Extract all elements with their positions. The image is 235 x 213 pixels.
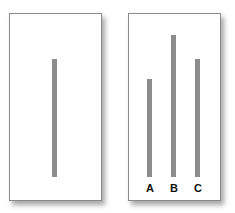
comparison-line-b <box>171 35 176 177</box>
label-c: C <box>192 182 204 194</box>
label-a: A <box>144 182 156 194</box>
reference-card <box>9 13 102 201</box>
comparison-card: A B C <box>128 13 221 201</box>
comparison-line-a <box>147 79 152 177</box>
comparison-line-c <box>195 59 200 177</box>
reference-line <box>52 59 57 177</box>
label-b: B <box>168 182 180 194</box>
